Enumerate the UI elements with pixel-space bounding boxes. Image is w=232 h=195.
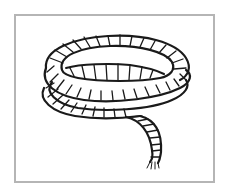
rope-coil-top [46, 35, 189, 81]
rope-coil-middle [45, 66, 190, 101]
rope-tail [126, 116, 161, 169]
coiled-rope-illustration [0, 0, 232, 195]
rope-coil-bottom [43, 80, 188, 118]
